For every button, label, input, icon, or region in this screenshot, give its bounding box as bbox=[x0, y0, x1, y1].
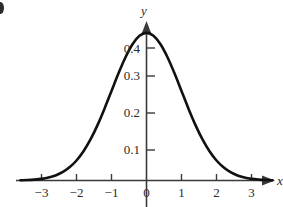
y-axis-name: y bbox=[141, 4, 147, 17]
x-tick-label-0: 0 bbox=[132, 186, 161, 199]
x-tick-label-2: 2 bbox=[202, 186, 231, 199]
y-axis-ticks bbox=[147, 48, 155, 150]
normal-distribution-figure: 0.4 0.3 0.2 0.1 −3 −2 −1 0 1 2 3 y x bbox=[0, 0, 283, 207]
x-tick-label-minus-3: −3 bbox=[27, 186, 56, 199]
x-axis-name: x bbox=[277, 174, 283, 187]
plot-canvas bbox=[0, 0, 283, 207]
y-tick-label-0.4: 0.4 bbox=[100, 42, 140, 55]
x-tick-label-3: 3 bbox=[237, 186, 266, 199]
x-tick-label-1: 1 bbox=[167, 186, 196, 199]
x-tick-label-minus-2: −2 bbox=[62, 186, 91, 199]
x-tick-label-minus-1: −1 bbox=[97, 186, 126, 199]
y-tick-label-0.3: 0.3 bbox=[100, 69, 140, 82]
y-tick-label-0.1: 0.1 bbox=[100, 143, 140, 156]
y-tick-label-0.2: 0.2 bbox=[100, 106, 140, 119]
